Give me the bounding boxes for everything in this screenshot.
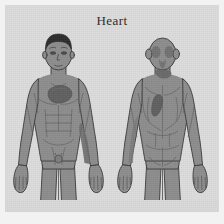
figure-posterior-view xyxy=(109,27,216,212)
illustration-panel: Heart xyxy=(5,5,219,212)
panel-bottom-edge xyxy=(5,200,219,212)
page-title: Heart xyxy=(5,13,219,28)
figure-anterior-view xyxy=(5,27,112,212)
heart-referred-pain-illustration: Heart xyxy=(0,0,224,224)
